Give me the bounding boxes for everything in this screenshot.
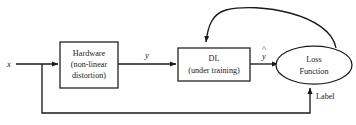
hardware-output-label: y: [144, 50, 149, 60]
loss-function-label-line1: Loss: [306, 55, 321, 64]
loss-function-label-line2: Function: [299, 67, 328, 76]
diagram-canvas: x Hardware (non-linear distortion) y DL …: [0, 0, 356, 125]
dl-label-line1: DL: [209, 54, 220, 63]
input-signal-label: x: [6, 59, 11, 69]
hardware-label-line2: (non-linear: [71, 60, 108, 69]
hardware-label-line3: distortion): [72, 71, 106, 80]
hardware-label-line1: Hardware: [73, 49, 106, 58]
loss-function-shape: [276, 46, 352, 84]
label-feedback-label: Label: [316, 92, 335, 101]
block-diagram: x Hardware (non-linear distortion) y DL …: [0, 0, 356, 125]
dl-output-label: y: [261, 51, 266, 61]
dl-label-line2: (under training): [188, 66, 240, 75]
wire-backprop-loss-to-dl: [206, 8, 336, 48]
